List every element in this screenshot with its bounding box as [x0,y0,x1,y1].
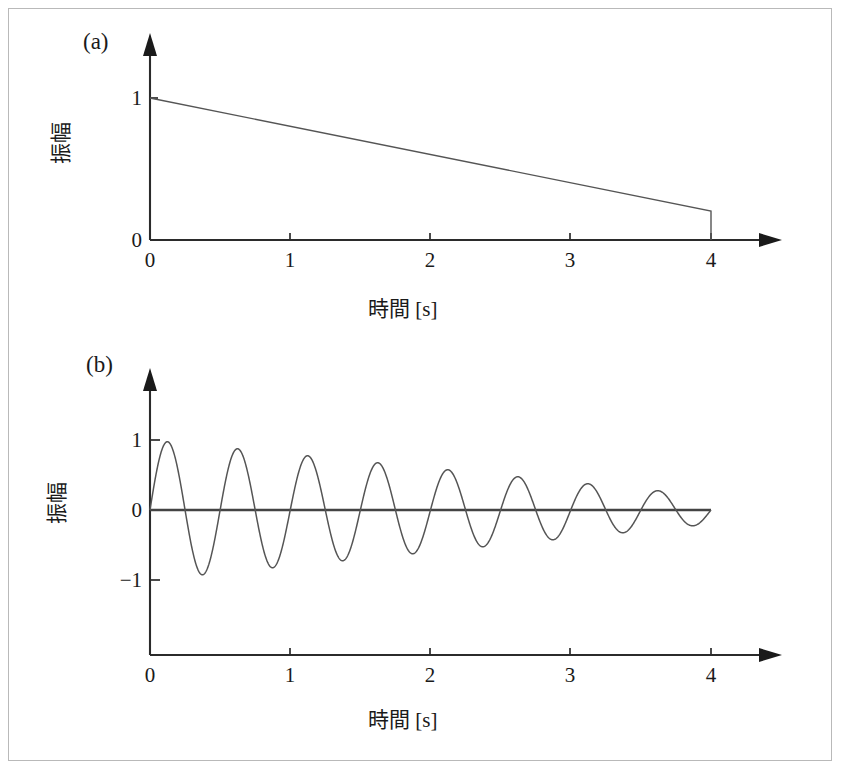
panel-b-xtick-label-1: 1 [270,663,310,688]
panel-b-ytick-label-0: 0 [108,498,142,523]
panel-b-ytick-label-1: 1 [108,428,142,453]
figure-damped-oscillation: (a) 振幅 時間 [s] 0 1 2 3 4 0 1 (b) 振幅 時間 [s… [0,0,842,771]
panel-b-damped-wave [150,442,711,575]
panel-b-plot [0,0,842,771]
panel-b-ytick-label-minus1: −1 [96,568,142,593]
panel-b-xtick-label-2: 2 [410,663,450,688]
panel-b-xtick-label-4: 4 [691,663,731,688]
panel-b-y-axis-arrowhead [143,368,157,391]
panel-b-xtick-label-0: 0 [130,663,170,688]
panel-b-x-axis-arrowhead [759,648,782,662]
panel-b-xtick-label-3: 3 [550,663,590,688]
